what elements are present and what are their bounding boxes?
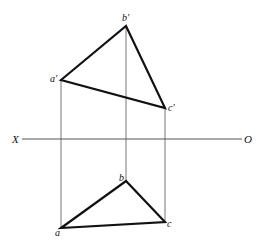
vertex-label-b-prime: b′ — [122, 12, 130, 23]
front-view-triangle — [61, 26, 165, 108]
vertex-label-a-prime: a′ — [50, 73, 58, 84]
vertex-label-b: b — [119, 172, 124, 183]
vertex-label-c: c — [167, 218, 172, 229]
vertex-label-c-prime: c′ — [168, 102, 175, 113]
axis-label-o: O — [244, 133, 252, 145]
axis-label-x: X — [11, 133, 20, 145]
projection-lines — [61, 26, 165, 228]
vertex-label-a: a — [55, 227, 60, 238]
projection-diagram: X O a′ b′ c′ a b c — [0, 0, 267, 251]
top-view-triangle — [61, 181, 165, 228]
